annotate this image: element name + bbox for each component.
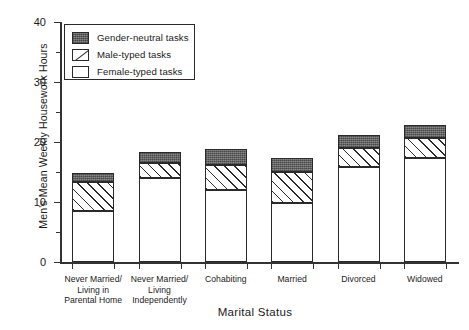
x-category-label-line: Living bbox=[121, 285, 199, 296]
stacked-bar-chart: Men's Mean Weekly Housework Hours 010203… bbox=[0, 0, 469, 330]
bar-stack bbox=[72, 173, 114, 262]
x-tick bbox=[446, 263, 447, 269]
bar-segment-female-typed bbox=[338, 167, 380, 262]
x-tick bbox=[181, 263, 182, 269]
y-tick-label: 40 bbox=[34, 17, 46, 28]
x-tick bbox=[72, 263, 73, 269]
x-axis-title: Marital Status bbox=[55, 306, 455, 318]
bar-segment-female-typed bbox=[404, 158, 446, 262]
x-tick bbox=[380, 263, 381, 269]
y-tick-minor bbox=[56, 112, 60, 113]
legend-item-female-typed: Female-typed tasks bbox=[72, 64, 188, 80]
legend-item-label: Female-typed tasks bbox=[97, 67, 183, 77]
x-tick bbox=[205, 263, 206, 269]
legend-item-label: Male-typed tasks bbox=[97, 50, 171, 60]
y-tick-major: 0 bbox=[54, 262, 60, 263]
bar-segment-gender-neutral bbox=[404, 125, 446, 139]
x-tick bbox=[247, 263, 248, 269]
x-tick bbox=[271, 263, 272, 269]
bar-segment-male-typed bbox=[72, 182, 114, 211]
bar-segment-gender-neutral bbox=[72, 173, 114, 182]
bar-segment-female-typed bbox=[72, 211, 114, 262]
bar-segment-female-typed bbox=[205, 190, 247, 262]
bar-segment-male-typed bbox=[139, 163, 181, 178]
x-tick bbox=[404, 263, 405, 269]
dark-gray-swatch-icon bbox=[72, 32, 89, 44]
x-tick bbox=[338, 263, 339, 269]
bar-segment-female-typed bbox=[139, 178, 181, 262]
legend: Gender-neutral tasks Male-typed tasks Fe… bbox=[64, 24, 195, 80]
y-tick-major: 30 bbox=[54, 82, 60, 83]
y-tick-minor bbox=[56, 52, 60, 53]
bar-segment-male-typed bbox=[271, 172, 313, 203]
bar-stack bbox=[205, 149, 247, 262]
bar-stack bbox=[404, 125, 446, 262]
y-tick-label: 30 bbox=[34, 77, 46, 88]
y-tick-minor bbox=[56, 172, 60, 173]
x-category-label: Widowed bbox=[386, 274, 464, 285]
bar-segment-female-typed bbox=[271, 203, 313, 262]
bar-segment-male-typed bbox=[404, 138, 446, 158]
bar-segment-gender-neutral bbox=[338, 135, 380, 148]
y-tick-major: 20 bbox=[54, 142, 60, 143]
x-tick bbox=[139, 263, 140, 269]
legend-item-male-typed: Male-typed tasks bbox=[72, 47, 188, 63]
bar-segment-male-typed bbox=[338, 148, 380, 167]
x-tick bbox=[313, 263, 314, 269]
y-axis-line bbox=[60, 22, 62, 263]
hatched-swatch-icon bbox=[72, 49, 89, 61]
bar-stack bbox=[338, 135, 380, 262]
bar-segment-gender-neutral bbox=[205, 149, 247, 165]
y-tick-label: 10 bbox=[34, 197, 46, 208]
y-tick-label: 0 bbox=[40, 257, 46, 268]
bar-stack bbox=[139, 152, 181, 262]
bar-segment-gender-neutral bbox=[139, 152, 181, 163]
bar-segment-male-typed bbox=[205, 165, 247, 190]
legend-item-gender-neutral: Gender-neutral tasks bbox=[72, 30, 188, 46]
bar-stack bbox=[271, 158, 313, 262]
legend-item-label: Gender-neutral tasks bbox=[97, 33, 189, 43]
bar-segment-gender-neutral bbox=[271, 158, 313, 172]
y-tick-major: 10 bbox=[54, 202, 60, 203]
y-tick-label: 20 bbox=[34, 137, 46, 148]
x-category-label-line: Widowed bbox=[386, 274, 464, 285]
x-category-label-line: Independently bbox=[121, 295, 199, 306]
white-swatch-icon bbox=[72, 66, 89, 78]
x-axis-line bbox=[60, 262, 459, 264]
x-tick bbox=[114, 263, 115, 269]
y-tick-minor bbox=[56, 232, 60, 233]
y-tick-major: 40 bbox=[54, 22, 60, 23]
